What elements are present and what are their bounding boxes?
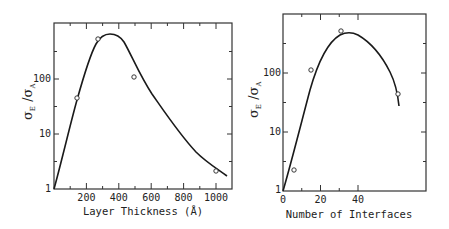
svg-text:100: 100	[33, 73, 51, 84]
data-point	[339, 29, 343, 33]
right-x-axis-label: Number of Interfaces	[286, 208, 412, 220]
right-plot-frame	[283, 14, 426, 191]
svg-text:600: 600	[142, 192, 160, 203]
svg-text:1: 1	[275, 184, 281, 195]
right-y-ticks	[283, 44, 426, 162]
svg-text:800: 800	[175, 192, 193, 203]
data-point	[75, 96, 79, 100]
svg-text:100: 100	[263, 67, 281, 78]
right-y-axis-label: σE /σA	[246, 81, 263, 118]
svg-text:10: 10	[269, 126, 281, 137]
data-point	[309, 68, 313, 72]
figure: 200 400 600 800 1000 1 10 100 Layer Thic…	[0, 0, 449, 229]
data-point	[132, 75, 136, 79]
left-y-tick-labels: 1 10 100	[33, 73, 51, 194]
left-plot: 200 400 600 800 1000 1 10 100 Layer Thic…	[20, 23, 232, 217]
left-plot-frame	[54, 23, 232, 189]
right-x-ticks	[302, 14, 358, 191]
svg-text:0: 0	[280, 194, 286, 205]
svg-text:σE /σA: σE /σA	[246, 81, 263, 118]
svg-text:σE /σA: σE /σA	[20, 83, 37, 120]
left-x-axis-label: Layer Thickness (Å)	[83, 205, 203, 217]
data-point	[96, 37, 100, 41]
left-fit-curve	[54, 34, 227, 189]
right-x-tick-labels: 0 20 40	[280, 194, 364, 205]
left-y-axis-label: σE /σA	[20, 83, 37, 120]
svg-text:200: 200	[77, 192, 95, 203]
right-fit-curve	[283, 33, 399, 191]
right-y-tick-labels: 1 10 100	[263, 67, 281, 195]
svg-text:40: 40	[352, 194, 364, 205]
svg-text:10: 10	[39, 128, 51, 139]
right-plot: 0 20 40 1 10 100 Number of Interfaces σE…	[246, 14, 426, 220]
data-point	[396, 92, 400, 96]
right-data-points	[292, 29, 400, 172]
svg-text:1: 1	[45, 183, 51, 194]
left-x-tick-labels: 200 400 600 800 1000	[77, 192, 228, 203]
data-point	[214, 169, 218, 173]
left-x-ticks	[70, 23, 216, 189]
left-y-ticks	[54, 52, 232, 162]
svg-text:20: 20	[314, 194, 326, 205]
svg-text:400: 400	[110, 192, 128, 203]
data-point	[292, 168, 296, 172]
svg-text:1000: 1000	[204, 192, 228, 203]
